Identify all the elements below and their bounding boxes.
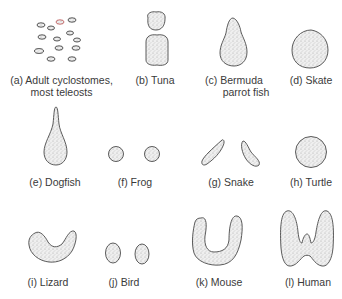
human-thyroid-illustration	[0, 0, 342, 280]
panel-l-label: (l) Human	[280, 276, 336, 288]
